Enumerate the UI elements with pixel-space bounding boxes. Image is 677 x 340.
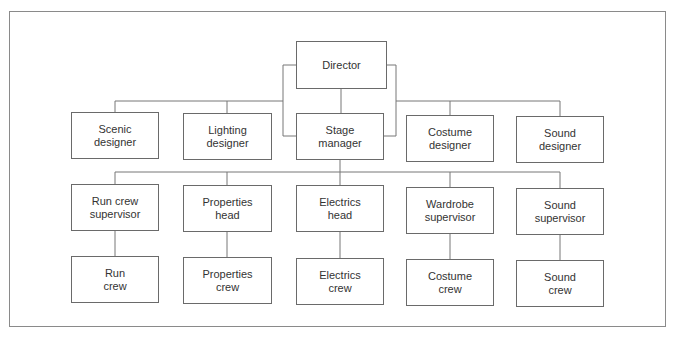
node-label: head — [319, 209, 361, 222]
node-costume-crew: Costumecrew — [406, 259, 494, 306]
node-label: Run crew — [90, 195, 141, 208]
node-label: crew — [544, 284, 576, 297]
node-label: designer — [94, 136, 136, 149]
node-properties-crew: Propertiescrew — [183, 257, 272, 304]
node-properties-head: Propertieshead — [183, 185, 272, 232]
node-label: manager — [318, 137, 361, 150]
node-label: crew — [428, 283, 472, 296]
node-label: Director — [322, 59, 361, 72]
node-label: head — [202, 209, 252, 222]
node-label: supervisor — [90, 208, 141, 221]
node-label: Lighting — [206, 124, 248, 137]
node-label: Run — [103, 267, 126, 280]
node-wardrobe-supervisor: Wardrobesupervisor — [406, 187, 494, 234]
node-label: Scenic — [94, 123, 136, 136]
node-label: designer — [206, 137, 248, 150]
node-lighting-designer: Lightingdesigner — [183, 113, 272, 160]
node-label: supervisor — [535, 212, 586, 225]
node-run-crew-supervisor: Run crewsupervisor — [71, 184, 159, 231]
node-label: Wardrobe — [425, 198, 476, 211]
node-label: supervisor — [425, 211, 476, 224]
node-label: Sound — [544, 271, 576, 284]
node-label: Costume — [428, 270, 472, 283]
node-scenic-designer: Scenicdesigner — [71, 112, 159, 159]
node-sound-supervisor: Soundsupervisor — [516, 188, 604, 235]
org-chart: Director Scenicdesigner Lightingdesigner… — [0, 0, 677, 340]
node-label: Properties — [202, 268, 252, 281]
node-label: Properties — [202, 196, 252, 209]
node-label: crew — [319, 282, 361, 295]
node-label: Costume — [428, 126, 472, 139]
node-director: Director — [296, 41, 387, 89]
node-sound-crew: Soundcrew — [516, 260, 604, 307]
node-label: designer — [539, 140, 581, 153]
node-stage-manager: Stagemanager — [296, 113, 384, 160]
node-electrics-head: Electricshead — [296, 185, 384, 232]
node-label: Electrics — [319, 269, 361, 282]
node-label: Stage — [318, 124, 361, 137]
node-label: Sound — [539, 127, 581, 140]
node-sound-designer: Sounddesigner — [516, 116, 604, 163]
node-run-crew: Runcrew — [71, 256, 159, 303]
node-label: Sound — [535, 199, 586, 212]
node-label: Electrics — [319, 196, 361, 209]
node-label: designer — [428, 139, 472, 152]
node-label: crew — [103, 280, 126, 293]
node-electrics-crew: Electricscrew — [296, 258, 384, 305]
node-costume-designer: Costumedesigner — [406, 115, 494, 162]
node-label: crew — [202, 281, 252, 294]
